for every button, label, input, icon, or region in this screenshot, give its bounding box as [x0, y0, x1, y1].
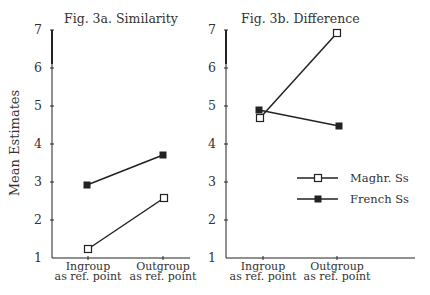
marker-french-outgroup-left [160, 152, 167, 159]
svg-text:2: 2 [34, 212, 42, 227]
series-line-french-left [87, 155, 163, 185]
svg-text:6: 6 [208, 60, 216, 75]
y-tick-labels-right: 1 2 3 4 5 6 7 [208, 22, 216, 265]
legend: Maghr. Ss French Ss [297, 171, 409, 206]
x-category-labels-left: Ingroup as ref. point Outgroup as ref. p… [55, 260, 197, 283]
svg-text:7: 7 [34, 22, 42, 37]
svg-text:1: 1 [34, 250, 42, 265]
open-square-icon [315, 175, 322, 182]
svg-text:as ref. point: as ref. point [304, 270, 371, 283]
marker-french-ingroup-left [84, 182, 91, 189]
marker-french-outgroup-right [336, 123, 343, 130]
filled-square-icon [315, 196, 322, 203]
svg-text:5: 5 [34, 98, 42, 113]
legend-item-french: French Ss [297, 192, 409, 206]
svg-text:2: 2 [208, 212, 216, 227]
svg-text:as ref. point: as ref. point [230, 270, 297, 283]
marker-maghr-outgroup-right [334, 30, 341, 37]
marker-maghr-ingroup-left [85, 246, 92, 253]
marker-maghr-outgroup-left [161, 195, 168, 202]
svg-text:1: 1 [208, 250, 216, 265]
y-axis-label: Mean Estimates [7, 90, 22, 196]
marker-maghr-ingroup-right [257, 115, 264, 122]
svg-text:4: 4 [34, 136, 42, 151]
chart-title-left: Fig. 3a. Similarity [64, 11, 179, 26]
chart-right-difference: Fig. 3b. Difference 1 2 3 4 5 6 7 Ingrou… [208, 11, 415, 283]
legend-label-french: French Ss [350, 192, 409, 206]
svg-text:4: 4 [208, 136, 216, 151]
chart-left-similarity: Fig. 3a. Similarity Mean Estimates 1 2 3… [7, 11, 197, 283]
svg-text:3: 3 [208, 174, 216, 189]
svg-text:5: 5 [208, 98, 216, 113]
figure-3: Fig. 3a. Similarity Mean Estimates 1 2 3… [0, 0, 430, 295]
legend-item-maghr: Maghr. Ss [297, 171, 409, 185]
x-category-labels-right: Ingroup as ref. point Outgroup as ref. p… [230, 260, 371, 283]
svg-text:as ref. point: as ref. point [130, 270, 197, 283]
series-line-french-right [259, 110, 339, 126]
series-line-maghr-left [88, 198, 164, 249]
chart-title-right: Fig. 3b. Difference [241, 11, 360, 26]
svg-text:6: 6 [34, 60, 42, 75]
marker-french-ingroup-right [256, 107, 263, 114]
svg-text:as ref. point: as ref. point [55, 270, 122, 283]
legend-label-maghr: Maghr. Ss [350, 171, 409, 185]
svg-text:3: 3 [34, 174, 42, 189]
y-tick-labels-left: 1 2 3 4 5 6 7 [34, 22, 42, 265]
svg-text:7: 7 [208, 22, 216, 37]
series-line-maghr-right [260, 33, 337, 118]
